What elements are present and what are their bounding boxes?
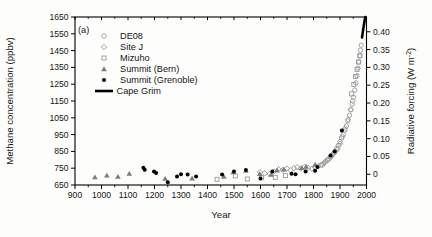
marker-filled-circle: [304, 169, 308, 173]
y-left-tick-label: 950: [54, 130, 69, 140]
x-tick-label: 1800: [304, 190, 323, 200]
legend-label: DE08: [120, 31, 143, 41]
marker-triangle: [189, 176, 195, 181]
marker-filled-circle: [220, 173, 224, 177]
marker-open-circle: [102, 34, 106, 38]
y-right-tick-label: 0.20: [373, 98, 390, 108]
y-axis-title-right: Radiative forcing (W m-2): [405, 48, 416, 154]
axes-box: [75, 17, 367, 185]
marker-filled-circle: [186, 173, 190, 177]
marker-filled-circle: [179, 172, 183, 176]
marker-open-diamond: [101, 44, 106, 49]
marker-filled-circle: [166, 180, 170, 184]
marker-triangle: [104, 173, 110, 178]
marker-filled-circle: [270, 170, 274, 174]
marker-triangle: [101, 66, 107, 71]
y-right-tick-label: 0.35: [373, 45, 390, 55]
marker-open-square: [273, 175, 277, 179]
marker-filled-circle: [259, 177, 263, 181]
y-right-tick-label: 0.10: [373, 134, 390, 144]
marker-filled-circle: [232, 170, 236, 174]
y-left-tick-label: 1150: [50, 96, 69, 106]
legend-label: Summit (Bern): [120, 64, 179, 74]
marker-triangle: [115, 174, 121, 179]
marker-filled-circle: [194, 175, 198, 179]
legend-item-cape-grim: Cape Grim: [95, 86, 161, 96]
panel-label: (a): [78, 25, 89, 35]
legend-label: Summit (Grenoble): [120, 75, 198, 85]
marker-filled-circle: [143, 168, 147, 172]
methane-chart: 9001000110012001300140015001600170018001…: [0, 0, 432, 237]
marker-open-square: [102, 56, 106, 60]
cape-grim-line: [362, 17, 365, 38]
x-tick-label: 1300: [171, 190, 190, 200]
marker-triangle: [162, 176, 168, 181]
y-left-tick-label: 1050: [49, 113, 68, 123]
x-tick-label: 1500: [224, 190, 243, 200]
legend-item-mizuho: Mizuho: [102, 53, 150, 63]
legend-label: Mizuho: [120, 53, 150, 63]
y-left-tick-label: 850: [54, 146, 69, 156]
marker-filled-circle: [175, 175, 179, 179]
y-left-tick-label: 1450: [49, 46, 68, 56]
marker-triangle: [127, 171, 133, 176]
legend: DE08Site JMizuhoSummit (Bern)Summit (Gre…: [95, 31, 198, 96]
marker-filled-circle: [316, 165, 320, 169]
y-left-tick-label: 650: [54, 180, 69, 190]
y-right-title-main: Radiative forcing (W m: [405, 57, 416, 154]
marker-open-circle: [358, 48, 362, 52]
y-right-tick-label: 0.30: [373, 62, 390, 72]
y-left-tick-label: 1550: [49, 29, 68, 39]
x-tick-label: 1400: [198, 190, 217, 200]
marker-filled-circle: [290, 172, 294, 176]
x-tick-label: 1700: [277, 190, 296, 200]
marker-open-square: [233, 174, 237, 178]
marker-triangle: [92, 174, 98, 179]
marker-open-square: [245, 177, 249, 181]
marker-filled-circle: [102, 78, 106, 82]
y-left-tick-label: 750: [54, 163, 69, 173]
y-left-tick-label: 1650: [49, 12, 68, 22]
legend-item-site-j: Site J: [101, 42, 143, 52]
series-cape-grim: [362, 17, 365, 38]
y-right-title-close: ): [405, 48, 416, 51]
y-right-tick-label: 0.40: [373, 27, 390, 37]
marker-filled-circle: [329, 154, 333, 158]
x-tick-label: 1600: [251, 190, 270, 200]
marker-open-diamond: [262, 171, 267, 176]
legend-item-de08: DE08: [102, 31, 143, 41]
marker-open-square: [283, 174, 287, 178]
y-axis-title-left: Methane concentration (ppbv): [4, 37, 15, 164]
y-left-tick-label: 1250: [49, 79, 68, 89]
x-tick-label: 1000: [92, 190, 111, 200]
legend-label: Site J: [120, 42, 143, 52]
y-left-tick-label: 1350: [49, 62, 68, 72]
marker-filled-circle: [313, 169, 317, 173]
x-tick-label: 1900: [330, 190, 349, 200]
marker-filled-circle: [244, 168, 248, 172]
x-tick-label: 2000: [357, 190, 376, 200]
x-tick-label: 900: [68, 190, 83, 200]
y-right-tick-label: 0: [373, 169, 378, 179]
x-axis-title: Year: [211, 209, 231, 220]
y-right-tick-label: 0.25: [373, 80, 390, 90]
legend-item-summit-grenoble-: Summit (Grenoble): [102, 75, 198, 85]
x-tick-label: 1100: [119, 190, 138, 200]
marker-filled-circle: [340, 128, 344, 132]
figure-methane-panel-a: 9001000110012001300140015001600170018001…: [0, 0, 432, 237]
plot-frame: [75, 17, 367, 185]
marker-filled-circle: [154, 171, 158, 175]
legend-item-summit-bern-: Summit (Bern): [101, 64, 179, 74]
series-mizuho: [215, 54, 362, 182]
marker-open-square: [215, 177, 219, 181]
legend-label: Cape Grim: [117, 86, 162, 96]
x-tick-label: 1200: [145, 190, 164, 200]
marker-open-circle: [359, 43, 363, 47]
marker-filled-circle: [294, 172, 298, 176]
marker-filled-circle: [333, 149, 337, 153]
series-summit-grenoble-: [141, 128, 344, 184]
y-right-tick-label: 0.15: [373, 116, 390, 126]
marker-open-circle: [356, 66, 360, 70]
y-right-tick-label: 0.05: [373, 151, 390, 161]
